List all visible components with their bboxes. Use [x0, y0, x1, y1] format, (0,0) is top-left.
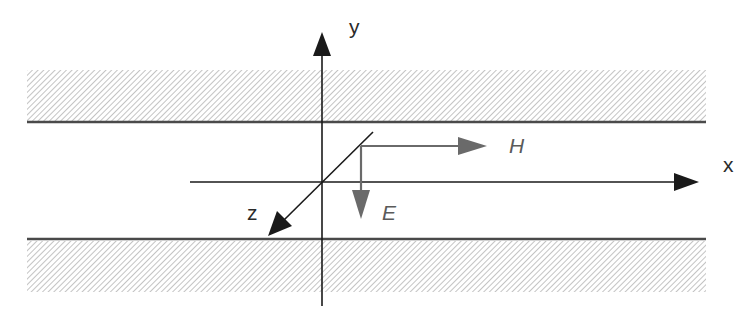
e-field-label: E: [382, 201, 397, 224]
x-axis-label: x: [723, 153, 734, 176]
e-arrowhead-icon: [352, 190, 370, 219]
h-field-label: H: [509, 134, 525, 157]
z-axis: z: [247, 132, 373, 236]
e-field-vector: E: [352, 146, 397, 224]
z-axis-label: z: [247, 201, 258, 224]
y-axis-arrowhead-icon: [313, 32, 331, 56]
h-field-vector: H: [361, 134, 525, 157]
upper-plate: [27, 70, 706, 122]
x-axis: x: [190, 153, 734, 191]
x-axis-arrowhead-icon: [674, 173, 699, 191]
waveguide-diagram: y x z H E: [0, 0, 756, 318]
lower-plate: [27, 239, 706, 292]
h-arrowhead-icon: [458, 137, 487, 155]
y-axis-label: y: [349, 15, 360, 38]
